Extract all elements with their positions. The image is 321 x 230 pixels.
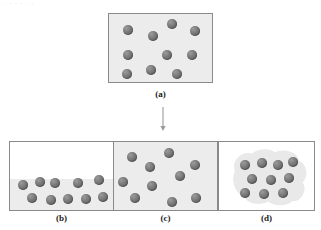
- molecule-sphere: [123, 25, 134, 36]
- molecule-sphere: [148, 31, 159, 42]
- molecule-sphere: [145, 162, 156, 173]
- panel-a-molecules: [109, 14, 212, 82]
- panel-c-molecules: [114, 142, 217, 210]
- molecule-sphere: [50, 178, 61, 189]
- molecule-sphere: [167, 197, 178, 208]
- figure-canvas: - - - - - - (a) (b) (c) (d): [0, 0, 321, 230]
- molecule-sphere: [122, 69, 133, 80]
- molecule-sphere: [164, 148, 175, 159]
- molecule-sphere: [175, 171, 186, 182]
- molecule-sphere: [257, 158, 268, 169]
- molecule-sphere: [73, 178, 84, 189]
- panel-b-molecules: [10, 142, 113, 210]
- molecule-sphere: [18, 180, 29, 191]
- molecule-sphere: [240, 188, 251, 199]
- panel-d-container: [218, 141, 315, 211]
- molecule-sphere: [187, 50, 198, 61]
- downward-arrow-icon: [155, 107, 171, 133]
- molecule-sphere: [162, 50, 173, 61]
- panel-a-caption: (a): [108, 89, 213, 99]
- molecule-sphere: [240, 160, 251, 171]
- panel-a-container: [108, 13, 213, 83]
- panel-c-container: [113, 141, 218, 211]
- cropped-text-remnant: - - - - - -: [4, 1, 44, 6]
- molecule-sphere: [123, 50, 134, 61]
- molecule-sphere: [94, 175, 105, 186]
- molecule-sphere: [172, 69, 183, 80]
- molecule-sphere: [35, 177, 46, 188]
- molecule-sphere: [98, 192, 109, 203]
- molecule-sphere: [273, 160, 284, 171]
- molecule-sphere: [266, 175, 277, 186]
- molecule-sphere: [146, 65, 157, 76]
- molecule-sphere: [130, 193, 141, 204]
- molecule-sphere: [147, 181, 158, 192]
- molecule-sphere: [46, 195, 57, 206]
- molecule-sphere: [284, 173, 295, 184]
- molecule-sphere: [191, 193, 202, 204]
- panel-c-caption: (c): [113, 213, 218, 223]
- panel-b-caption: (b): [9, 213, 114, 223]
- molecule-sphere: [127, 152, 138, 163]
- molecule-sphere: [288, 157, 299, 168]
- molecule-sphere: [259, 189, 270, 200]
- molecule-sphere: [190, 160, 201, 171]
- molecule-sphere: [190, 26, 201, 37]
- panel-d-caption: (d): [218, 213, 315, 223]
- molecule-sphere: [81, 194, 92, 205]
- molecule-sphere: [247, 174, 258, 185]
- molecule-sphere: [63, 194, 74, 205]
- panel-d-molecules: [219, 142, 314, 210]
- molecule-sphere: [118, 177, 129, 188]
- molecule-sphere: [167, 19, 178, 30]
- molecule-sphere: [27, 193, 38, 204]
- panel-b-container: [9, 141, 114, 211]
- molecule-sphere: [278, 188, 289, 199]
